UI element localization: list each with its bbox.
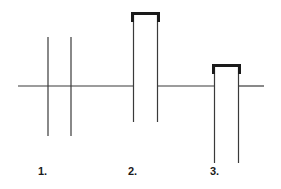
figure-3-label: 3. — [210, 166, 219, 177]
figure-3-bracket-top-icon — [214, 66, 240, 75]
line-diagram — [0, 0, 281, 189]
figure-2-label: 2. — [128, 166, 137, 177]
figure-2-group — [133, 14, 159, 123]
figure-1-label: 1. — [38, 166, 47, 177]
diagram-canvas: 1. 2. 3. — [0, 0, 281, 189]
figure-2-bracket-top-icon — [133, 14, 159, 23]
figure-3-group — [214, 66, 240, 164]
